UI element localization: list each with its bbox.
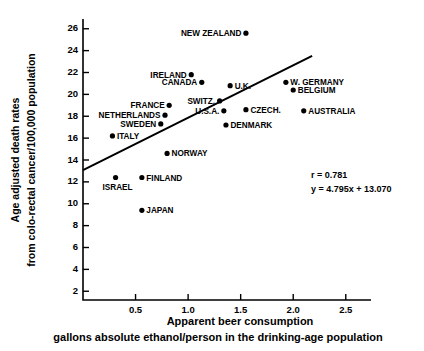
data-point-group: ISRAEL — [103, 175, 133, 192]
data-point-group: DENMARK — [223, 121, 272, 130]
data-point-marker — [189, 72, 194, 77]
y-axis-tick-label: 6 — [73, 241, 78, 252]
data-point-marker — [221, 108, 226, 113]
data-point-label: SWITZ. — [187, 97, 215, 106]
scatter-plot-figure: 2468101214161820222426 0.51.01.52.02.5 N… — [0, 0, 424, 351]
data-point-group: U.K. — [228, 82, 251, 91]
data-point-marker — [243, 31, 248, 36]
axes — [83, 19, 371, 300]
x-axis-tick-label: 0.5 — [129, 304, 143, 315]
data-point-label: NEW ZEALAND — [181, 29, 242, 38]
data-point-marker — [162, 113, 167, 118]
data-point-label: FRANCE — [131, 101, 166, 110]
data-point-label: AUSTRALIA — [308, 107, 355, 116]
y-axis-tick-label: 22 — [67, 66, 78, 77]
y-axis-tick-label: 24 — [67, 44, 78, 55]
data-point-label: U.K. — [235, 82, 251, 91]
data-point-marker — [301, 108, 306, 113]
data-point-label: U.S.A. — [195, 107, 219, 116]
y-axis-tick-label: 10 — [67, 197, 78, 208]
data-point-group: JAPAN — [139, 206, 173, 215]
data-point-marker — [139, 208, 144, 213]
y-axis-title-line1: Age adjusted death rates — [9, 97, 21, 222]
data-point-marker — [223, 122, 228, 127]
data-point-marker — [167, 103, 172, 108]
y-axis-tick-label: 20 — [67, 88, 78, 99]
y-axis-tick-label: 14 — [67, 154, 78, 165]
data-point-marker — [158, 121, 163, 126]
chart-canvas: 2468101214161820222426 0.51.01.52.02.5 N… — [0, 0, 424, 351]
data-point-label: NORWAY — [172, 149, 208, 158]
regression-annotation: r = 0.781 y = 4.795x + 13.070 — [311, 170, 392, 194]
data-point-marker — [291, 87, 296, 92]
y-axis-tick-label: 18 — [67, 110, 78, 121]
data-point-group: NETHERLANDS — [99, 111, 168, 120]
y-axis-ticks: 2468101214161820222426 — [67, 22, 89, 296]
data-point-marker — [243, 107, 248, 112]
data-point-label: FINLAND — [146, 174, 182, 183]
y-axis-title: Age adjusted death rates from colo-recta… — [9, 53, 37, 267]
correlation-coefficient-text: r = 0.781 — [311, 170, 347, 180]
y-axis-tick-label: 4 — [73, 263, 79, 274]
data-point-label: JAPAN — [146, 206, 173, 215]
x-axis-title-line2: gallons absolute ethanol/person in the d… — [53, 331, 383, 343]
data-point-marker — [228, 83, 233, 88]
data-point-group: NORWAY — [164, 149, 208, 158]
data-point-label: ITALY — [117, 132, 140, 141]
data-point-marker — [164, 151, 169, 156]
y-axis-tick-label: 2 — [73, 285, 78, 296]
data-point-group: CANADA — [162, 78, 205, 87]
y-axis-tick-label: 8 — [73, 219, 78, 230]
data-point-group: U.S.A. — [195, 107, 226, 116]
data-point-group: FRANCE — [131, 101, 172, 110]
data-point-group: BELGIUM — [291, 86, 336, 95]
data-point-label: BELGIUM — [298, 86, 336, 95]
y-axis-tick-label: 26 — [67, 22, 78, 33]
y-axis-tick-label: 16 — [67, 132, 78, 143]
data-point-group: SWEDEN — [120, 120, 163, 129]
axis-lines — [83, 19, 371, 300]
data-point-marker — [283, 80, 288, 85]
data-point-group: FINLAND — [139, 174, 182, 183]
x-axis-title: Apparent beer consumption gallons absolu… — [53, 315, 383, 343]
data-point-marker — [110, 133, 115, 138]
data-point-marker — [217, 98, 222, 103]
data-point-group: CZECH. — [243, 106, 281, 115]
data-point-group: NEW ZEALAND — [181, 29, 249, 38]
data-point-label: CZECH. — [250, 106, 280, 115]
x-axis-tick-label: 1.5 — [234, 304, 248, 315]
data-point-label: DENMARK — [230, 121, 272, 130]
data-point-label: CANADA — [162, 78, 198, 87]
y-axis-tick-label: 12 — [67, 175, 78, 186]
x-axis-tick-label: 1.0 — [182, 304, 195, 315]
data-point-marker — [113, 175, 118, 180]
regression-equation-text: y = 4.795x + 13.070 — [311, 184, 392, 194]
data-point-marker — [199, 80, 204, 85]
data-point-label: SWEDEN — [120, 120, 156, 129]
data-point-group: ITALY — [110, 132, 140, 141]
data-point-group: AUSTRALIA — [301, 107, 355, 116]
data-point-label: NETHERLANDS — [99, 111, 161, 120]
y-axis-title-line2: from colo-rectal cancer/100,000 populati… — [25, 53, 37, 267]
data-point-group: SWITZ. — [187, 97, 222, 106]
x-axis-ticks: 0.51.01.52.02.5 — [129, 294, 353, 315]
x-axis-tick-label: 2.0 — [287, 304, 300, 315]
data-point-label: ISRAEL — [103, 183, 133, 192]
data-point-marker — [139, 175, 144, 180]
x-axis-title-line1: Apparent beer consumption — [167, 315, 314, 327]
x-axis-tick-label: 2.5 — [339, 304, 353, 315]
